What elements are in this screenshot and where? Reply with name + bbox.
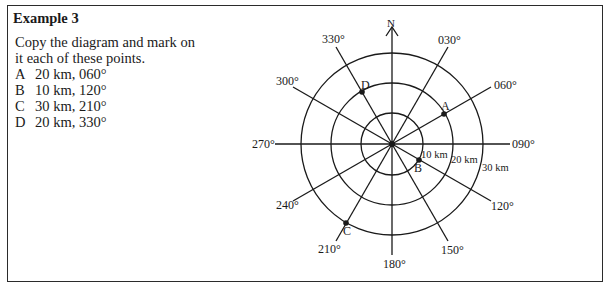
ring-label-10km: 10 km xyxy=(421,149,448,160)
point-d-label: D xyxy=(361,78,370,92)
spoke-060 xyxy=(392,87,491,144)
bearing-label-120: 120° xyxy=(491,199,514,213)
bearing-label-030: 030° xyxy=(438,33,461,47)
point-a-label: A xyxy=(441,99,450,113)
centre-point xyxy=(389,141,395,147)
bearing-label-300: 300° xyxy=(276,74,299,88)
polar-bearing-diagram: N 030° 060° 090° 120° 150° 180° 210° 240… xyxy=(0,0,612,292)
bearing-label-210: 210° xyxy=(318,242,341,256)
bearing-label-090: 090° xyxy=(512,137,535,151)
bearing-label-270: 270° xyxy=(252,137,275,151)
bearing-label-150: 150° xyxy=(441,243,464,257)
spoke-240 xyxy=(293,144,392,201)
bearing-label-060: 060° xyxy=(494,78,517,92)
north-label: N xyxy=(387,17,395,29)
point-b-label: B xyxy=(414,161,422,175)
bearing-label-240: 240° xyxy=(276,198,299,212)
bearing-label-180: 180° xyxy=(383,257,406,271)
ring-label-30km: 30 km xyxy=(482,162,509,173)
point-c-label: C xyxy=(343,224,351,238)
ring-label-20km: 20 km xyxy=(451,154,478,165)
bearing-label-330: 330° xyxy=(322,32,345,46)
spoke-300 xyxy=(293,87,392,144)
